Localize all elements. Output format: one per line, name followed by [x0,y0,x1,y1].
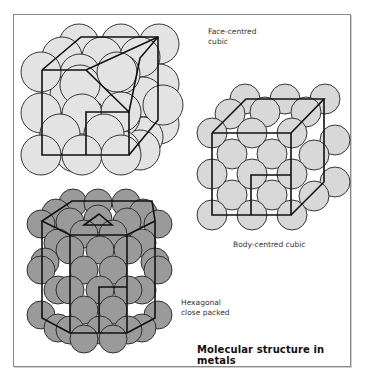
fcc-label-line1: Face-centred [208,27,256,37]
diagram-artwork [0,0,365,379]
hcp-label: Hexagonal close packed [181,298,230,318]
hcp-label-line2: close packed [181,308,230,318]
bcc-structure [197,84,350,230]
fcc-label: Face-centred cubic [208,27,256,47]
bcc-label: Body-centred cubic [233,240,305,250]
hcp-label-line1: Hexagonal [181,298,230,308]
diagram-title: Molecular structure in metals [197,344,365,366]
fcc-label-line2: cubic [208,37,256,47]
